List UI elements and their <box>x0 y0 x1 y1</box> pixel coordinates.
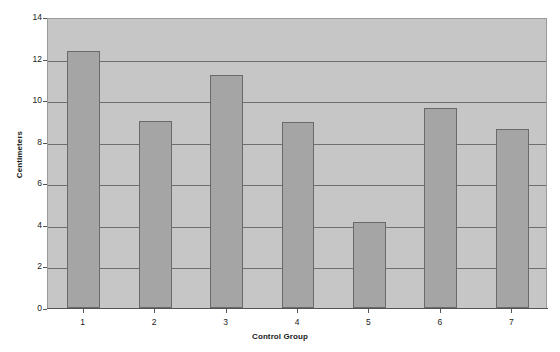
x-axis-tick-label: 1 <box>63 317 103 327</box>
x-axis-tick-label: 4 <box>277 317 317 327</box>
bar <box>424 108 457 308</box>
y-axis-tick-label: 6 <box>24 179 42 188</box>
bar <box>282 122 315 308</box>
x-axis-tick-label: 2 <box>134 317 174 327</box>
x-axis-tick-mark <box>83 309 84 313</box>
x-axis-tick-label: 7 <box>491 317 531 327</box>
x-axis-tick-mark <box>226 309 227 313</box>
bar <box>210 75 243 308</box>
bar <box>139 121 172 308</box>
y-axis-tick-label: 0 <box>24 304 42 313</box>
x-axis-tick-label: 6 <box>420 317 460 327</box>
bar-chart: Centimeters 02468101214 1234567 Control … <box>0 0 560 352</box>
x-axis-tick-label: 5 <box>348 317 388 327</box>
gridline <box>48 61 546 62</box>
y-axis-tick-label: 12 <box>24 55 42 64</box>
x-axis-tick-mark <box>440 309 441 313</box>
x-axis-tick-mark <box>154 309 155 313</box>
y-axis-tick-label: 14 <box>24 13 42 22</box>
bar <box>496 129 529 308</box>
y-axis-tick-label: 8 <box>24 138 42 147</box>
bar <box>67 51 100 308</box>
y-axis-tick-label: 4 <box>24 221 42 230</box>
x-axis-tick-mark <box>511 309 512 313</box>
y-axis-tick-labels: 02468101214 <box>20 0 42 352</box>
y-axis-tick-label: 2 <box>24 262 42 271</box>
plot-area <box>47 18 547 309</box>
y-axis-tick-label: 10 <box>24 96 42 105</box>
gridline <box>48 102 546 103</box>
x-axis-tick-mark <box>297 309 298 313</box>
x-axis-tick-label: 3 <box>206 317 246 327</box>
y-axis-tick-mark <box>43 309 47 310</box>
x-axis-title: Control Group <box>0 332 560 341</box>
x-axis-tick-mark <box>368 309 369 313</box>
bar <box>353 222 386 308</box>
